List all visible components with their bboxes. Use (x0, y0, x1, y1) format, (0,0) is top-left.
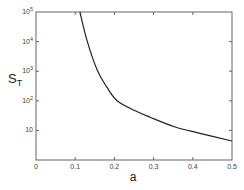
y-axis-ticks: 10102103104105 (22, 6, 232, 133)
y-tick-label: 10 (25, 126, 33, 133)
x-tick-label: 0.1 (70, 163, 80, 170)
plot-border (36, 12, 232, 160)
y-axis-label: ST (8, 71, 23, 88)
x-tick-label: 0.2 (110, 163, 120, 170)
y-tick-label: 102 (22, 95, 33, 104)
y-axis-label-main: S (8, 71, 17, 86)
x-tick-label: 0 (34, 163, 38, 170)
data-curve (80, 12, 232, 141)
x-tick-label: 0.3 (149, 163, 159, 170)
x-axis-label: a (130, 170, 137, 184)
y-tick-label: 103 (22, 65, 33, 74)
plot-frame (36, 12, 232, 160)
x-tick-label: 0.5 (227, 163, 237, 170)
chart: 00.10.20.30.40.5 10102103104105 a ST (0, 0, 244, 190)
x-axis-ticks: 00.10.20.30.40.5 (34, 12, 237, 170)
y-tick-label: 104 (22, 36, 33, 45)
y-tick-label: 105 (22, 6, 33, 15)
y-axis-label-sub: T (17, 78, 23, 88)
x-tick-label: 0.4 (188, 163, 198, 170)
